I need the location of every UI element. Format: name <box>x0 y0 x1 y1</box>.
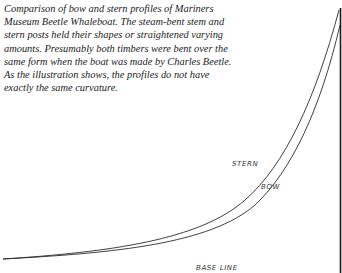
stern-curve <box>3 10 339 259</box>
profile-drawing <box>0 0 342 273</box>
base-line-label: BASE LINE <box>196 264 238 272</box>
stern-label: STERN <box>232 160 258 168</box>
bow-label: BOW <box>261 183 280 191</box>
